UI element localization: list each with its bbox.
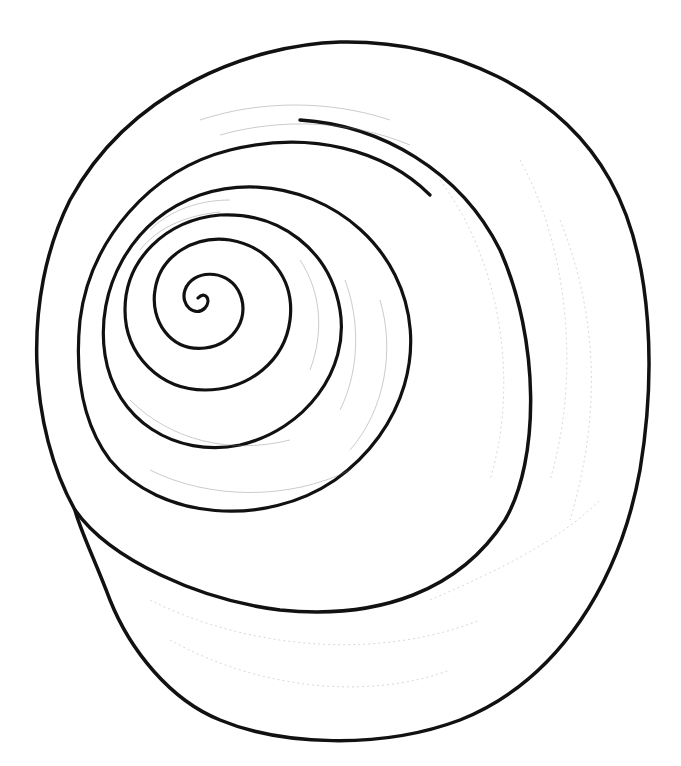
whorl-spiral bbox=[78, 142, 430, 511]
shell-drawing bbox=[0, 0, 681, 766]
body-whorl-line bbox=[75, 120, 531, 612]
